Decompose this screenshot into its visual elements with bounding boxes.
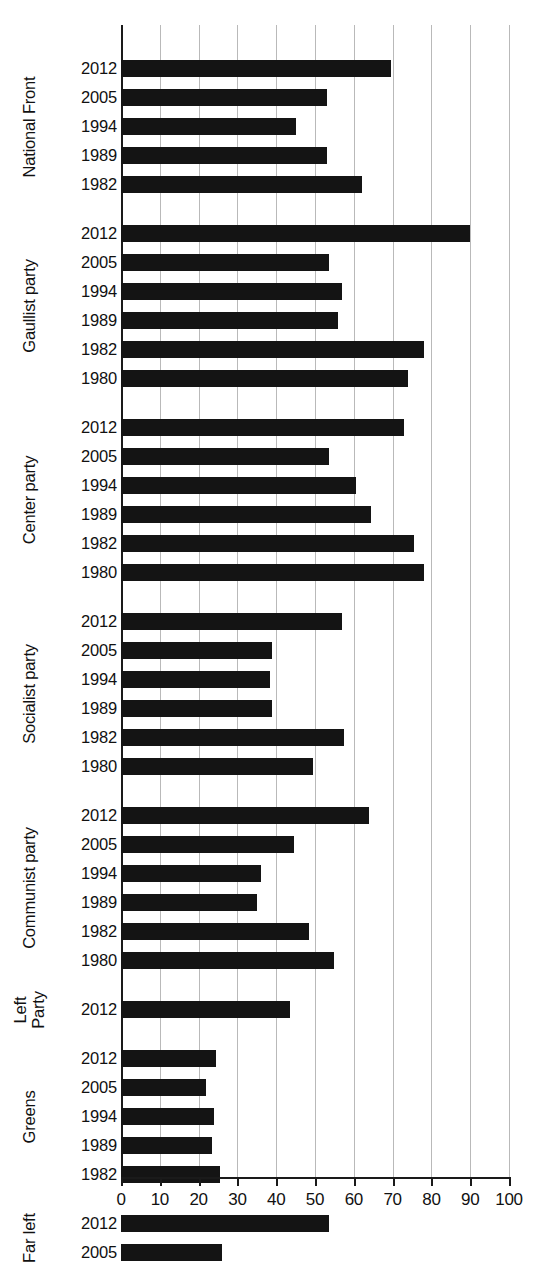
bar <box>121 1108 214 1125</box>
bar-row <box>121 758 509 775</box>
bar-row <box>121 283 509 300</box>
category-tick-label: 1980 <box>63 758 117 775</box>
bar-row <box>121 923 509 940</box>
bar-row <box>121 312 509 329</box>
bar <box>121 1050 216 1067</box>
category-tick-label: 2012 <box>63 1050 117 1067</box>
bar <box>121 1215 329 1232</box>
bar-row <box>121 836 509 853</box>
x-axis-tick <box>354 1177 356 1186</box>
bar <box>121 923 309 940</box>
group-label: Center party <box>0 419 58 581</box>
group-label: Greens <box>0 1050 58 1183</box>
x-axis-tick <box>431 1177 433 1186</box>
bar <box>121 1079 206 1096</box>
category-tick-label: 1982 <box>63 923 117 940</box>
bar <box>121 564 424 581</box>
bar <box>121 700 272 717</box>
bar <box>121 477 356 494</box>
category-tick-label: 2005 <box>63 1079 117 1096</box>
x-axis-tick <box>199 1177 201 1186</box>
category-tick-label: 2005 <box>63 1244 117 1261</box>
category-tick-label: 2012 <box>63 613 117 630</box>
bar-row <box>121 1001 509 1018</box>
bar-row <box>121 370 509 387</box>
bar <box>121 758 313 775</box>
x-axis-tick <box>237 1177 239 1186</box>
bar-row <box>121 700 509 717</box>
category-tick-label: 2012 <box>63 225 117 242</box>
bar <box>121 254 329 271</box>
category-tick-label: 1982 <box>63 1166 117 1183</box>
bar-row <box>121 147 509 164</box>
bar <box>121 283 342 300</box>
group-label: LeftParty <box>0 1001 58 1018</box>
bar <box>121 89 327 106</box>
group-label-text: Communist party <box>20 827 38 949</box>
bar-row <box>121 564 509 581</box>
bar <box>121 225 470 242</box>
plot-area <box>121 25 509 1177</box>
bar-row <box>121 1050 509 1067</box>
bar <box>121 506 371 523</box>
category-tick-label: 2005 <box>63 254 117 271</box>
bar-row <box>121 952 509 969</box>
category-tick-label: 1980 <box>63 952 117 969</box>
group-label: National Front <box>0 60 58 193</box>
category-tick-label: 1994 <box>63 118 117 135</box>
category-tick-label: 1989 <box>63 506 117 523</box>
category-tick-label: 1980 <box>63 564 117 581</box>
group-label: Communist party <box>0 807 58 969</box>
category-tick-label: 1982 <box>63 176 117 193</box>
group-label-text: Far left <box>20 1213 38 1263</box>
group-label: Far left <box>0 1215 58 1261</box>
x-axis-tick-label: 100 <box>479 1189 539 1211</box>
bar <box>121 448 329 465</box>
bar-row <box>121 894 509 911</box>
bar-row <box>121 807 509 824</box>
bar <box>121 952 334 969</box>
group-label-text: LeftParty <box>11 981 47 1039</box>
category-tick-label: 2012 <box>63 419 117 436</box>
bar <box>121 370 408 387</box>
bar <box>121 419 404 436</box>
x-axis-tick <box>470 1177 472 1186</box>
category-tick-label: 1989 <box>63 312 117 329</box>
category-tick-label: 2012 <box>63 60 117 77</box>
x-axis-tick <box>393 1177 395 1186</box>
bar <box>121 147 327 164</box>
category-tick-label: 2012 <box>63 1215 117 1232</box>
group-label-text: Gaullist party <box>20 259 38 353</box>
category-tick-label: 1982 <box>63 341 117 358</box>
x-axis-tick <box>121 1177 123 1186</box>
x-axis-tick <box>509 1177 511 1186</box>
category-tick-label: 1982 <box>63 729 117 746</box>
bar-row <box>121 1215 509 1232</box>
bar-row <box>121 506 509 523</box>
bar-row <box>121 671 509 688</box>
bar <box>121 118 296 135</box>
category-tick-label: 1989 <box>63 147 117 164</box>
bar-row <box>121 865 509 882</box>
category-tick-label: 2005 <box>63 89 117 106</box>
category-tick-label: 2012 <box>63 1001 117 1018</box>
category-tick-label: 1989 <box>63 894 117 911</box>
bar <box>121 1137 212 1154</box>
bar-row <box>121 448 509 465</box>
group-label-text: National Front <box>20 76 38 177</box>
bar <box>121 312 338 329</box>
bar <box>121 807 369 824</box>
category-tick-label: 2005 <box>63 642 117 659</box>
category-tick-label: 1994 <box>63 283 117 300</box>
category-tick-label: 1989 <box>63 1137 117 1154</box>
bar-row <box>121 60 509 77</box>
bar <box>121 729 344 746</box>
bar-row <box>121 118 509 135</box>
x-axis-tick <box>160 1177 162 1186</box>
bar-row <box>121 341 509 358</box>
bar <box>121 865 261 882</box>
x-axis-tick-labels: 0102030405060708090100 <box>0 1189 544 1215</box>
bar <box>121 60 391 77</box>
bar-row <box>121 535 509 552</box>
